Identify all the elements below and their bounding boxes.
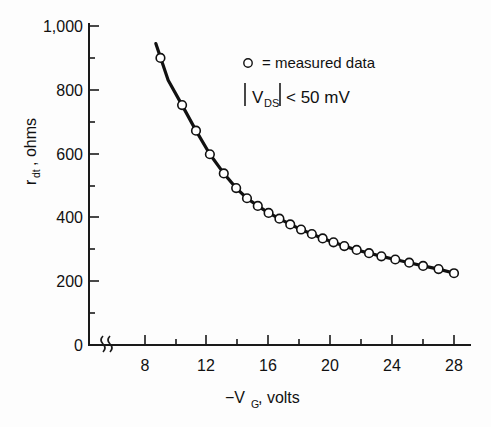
data-point [286, 220, 295, 229]
x-tick-label-12: 12 [197, 357, 215, 374]
data-point [377, 252, 386, 261]
data-point [264, 209, 273, 218]
data-point [419, 262, 428, 271]
data-point [243, 194, 252, 203]
legend-vds-subscript: DS [264, 97, 279, 109]
figure-container: 1,000 800 600 400 200 0 8 12 16 20 24 28 [0, 0, 491, 427]
x-axis-title: −V G , volts [225, 389, 300, 410]
data-point [178, 101, 187, 110]
data-point [352, 246, 361, 255]
x-axis-title-tail: , volts [258, 389, 300, 406]
legend-measured-data-label: = measured data [262, 54, 376, 71]
legend-vds-condition: < 50 mV [286, 88, 350, 107]
chart-svg: 1,000 800 600 400 200 0 8 12 16 20 24 28 [0, 0, 491, 427]
data-point [275, 214, 284, 223]
y-axis-title-tail: , ohms [22, 118, 39, 166]
data-point [253, 202, 262, 211]
x-tick-label-8: 8 [141, 357, 150, 374]
y-axis-title: r dt , ohms [22, 118, 42, 185]
y-axis-title-main: r [22, 179, 39, 185]
y-tick-label-200: 200 [56, 273, 83, 290]
data-curve [156, 44, 456, 274]
data-point [365, 249, 374, 258]
data-point [297, 225, 306, 234]
y-tick-label-1000: 1,000 [43, 18, 83, 35]
data-point [318, 234, 327, 243]
data-point [329, 238, 338, 247]
data-point [206, 150, 215, 159]
x-tick-label-16: 16 [259, 357, 277, 374]
x-tick-label-28: 28 [445, 357, 463, 374]
y-tick-label-600: 600 [56, 146, 83, 163]
data-point [219, 169, 228, 178]
y-tick-label-0: 0 [74, 337, 83, 354]
y-tick-label-400: 400 [56, 209, 83, 226]
legend-open-circle-icon [244, 59, 252, 67]
data-point [391, 255, 400, 264]
data-point [308, 230, 317, 239]
data-point [156, 54, 165, 63]
data-point [232, 184, 241, 193]
y-axis-title-subscript: dt [30, 169, 42, 178]
x-tick-label-20: 20 [321, 357, 339, 374]
x-axis-title-main: −V [225, 389, 245, 406]
data-point [192, 126, 201, 135]
legend-vds-prefix: V [252, 88, 264, 107]
data-point [405, 258, 414, 267]
x-tick-label-24: 24 [383, 357, 401, 374]
data-point [340, 242, 349, 251]
legend: = measured data V DS < 50 mV [244, 54, 376, 109]
data-point [450, 269, 459, 278]
y-tick-label-800: 800 [56, 82, 83, 99]
data-point [434, 265, 443, 274]
